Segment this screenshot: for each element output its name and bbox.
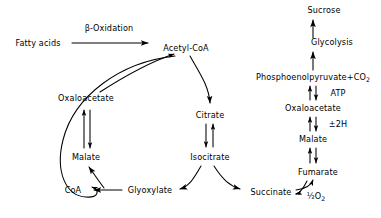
node-oxaloacetate-right: Oxaloacetate [285,104,341,112]
arrow-isocitrate-to-succinate [214,166,240,189]
node-oxaloacetate-left: Oxaloacetate [58,94,114,102]
node-acetyl-coa: Acetyl-CoA [163,44,209,52]
arc-oxaloacetate-left-to-acetyl-coa [100,54,174,92]
node-glyoxylate: Glyoxylate [128,186,172,194]
label-atp: ATP [330,89,345,97]
pep-co2-subscript: 2 [366,76,370,83]
node-malate-left: Malate [72,153,100,161]
arrow-isocitrate-to-glyoxylate [180,166,201,189]
node-citrate: Citrate [196,111,225,119]
node-coa: CoA [65,186,82,194]
half-fraction: ½ [307,191,315,201]
node-fumarate: Fumarate [298,168,338,176]
node-malate-right: Malate [299,135,327,143]
arrow-acetyl-coa-to-citrate [190,56,210,103]
node-fatty-acids: Fatty acids [15,39,60,47]
pathway-diagram: Fatty acids Acetyl-CoA Oxaloacetate Citr… [0,0,381,218]
node-sucrose: Sucrose [307,6,340,14]
arrow-glyoxylate-to-malate-left [89,167,104,188]
node-glycolysis: Glycolysis [311,38,353,46]
pep-text: Phosphoenolpyruvate+CO [256,72,366,82]
label-redox-2h: ±2H [329,120,347,128]
node-phosphoenolpyruvate: Phosphoenolpyruvate+CO2 [256,73,370,81]
node-succinate: Succinate [250,188,291,196]
label-beta-oxidation: β-Oxidation [85,24,134,32]
node-isocitrate: Isocitrate [190,153,229,161]
o2-subscript: 2 [321,195,325,202]
label-half-oxygen: ½O2 [307,192,326,200]
arc-acetyl-coa-to-coa-loop [60,56,175,197]
